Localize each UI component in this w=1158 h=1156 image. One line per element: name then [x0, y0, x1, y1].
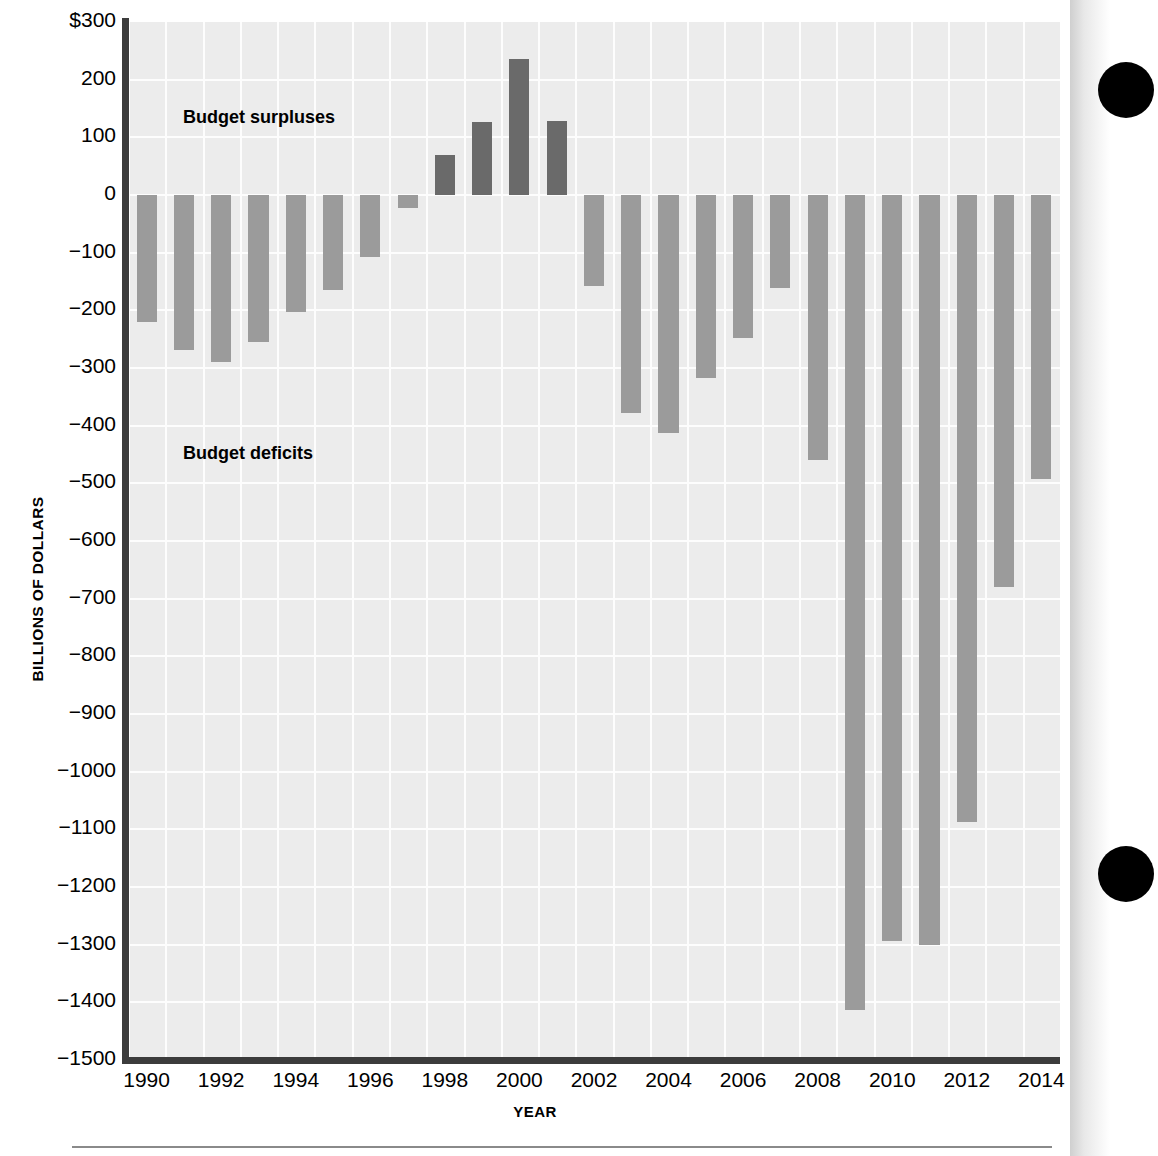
bar-1999	[472, 122, 492, 195]
y-tick-label: −1500	[0, 1046, 116, 1070]
bar-2000	[509, 59, 529, 195]
annotation-budget-deficits: Budget deficits	[183, 443, 313, 464]
y-tick-label: −1000	[0, 758, 116, 782]
y-tick-label: −900	[0, 700, 116, 724]
bar-2001	[547, 121, 567, 195]
y-tick-label: −500	[0, 469, 116, 493]
gridline-vertical	[724, 22, 726, 1060]
y-tick-label: −200	[0, 296, 116, 320]
gridline-vertical	[948, 22, 950, 1060]
bar-1998	[435, 155, 455, 195]
gridline-horizontal	[128, 79, 1060, 81]
plot-area	[128, 22, 1060, 1060]
bar-2012	[957, 195, 977, 822]
x-tick-label-2004: 2004	[645, 1068, 692, 1092]
x-tick-label-2006: 2006	[720, 1068, 767, 1092]
x-tick-label-2014: 2014	[1018, 1068, 1065, 1092]
gridline-vertical	[501, 22, 503, 1060]
bar-1997	[398, 195, 418, 208]
gridline-vertical	[985, 22, 987, 1060]
gridline-vertical	[836, 22, 838, 1060]
gridline-vertical	[762, 22, 764, 1060]
bar-2014	[1031, 195, 1051, 479]
bar-2003	[621, 195, 641, 413]
y-tick-label: −100	[0, 239, 116, 263]
page-margin-strip	[1070, 0, 1158, 1156]
x-axis-title: YEAR	[0, 1103, 1070, 1120]
bar-2010	[882, 195, 902, 941]
bar-2004	[658, 195, 678, 433]
gridline-vertical	[538, 22, 540, 1060]
gridline-vertical	[799, 22, 801, 1060]
bar-2009	[845, 195, 865, 1010]
gridline-vertical	[426, 22, 428, 1060]
bar-1991	[174, 195, 194, 350]
x-tick-label-1994: 1994	[272, 1068, 319, 1092]
y-tick-label: −600	[0, 527, 116, 551]
x-axis-line	[122, 1057, 1060, 1064]
gridline-vertical	[687, 22, 689, 1060]
y-axis-line	[122, 18, 129, 1064]
bar-1994	[286, 195, 306, 312]
y-tick-label: −1100	[0, 815, 116, 839]
x-tick-label-2010: 2010	[869, 1068, 916, 1092]
bar-1995	[323, 195, 343, 290]
y-tick-label: −400	[0, 412, 116, 436]
gridline-vertical	[165, 22, 167, 1060]
bar-2006	[733, 195, 753, 338]
y-tick-label: −300	[0, 354, 116, 378]
gridline-vertical	[575, 22, 577, 1060]
x-tick-label-1996: 1996	[347, 1068, 394, 1092]
bar-1996	[360, 195, 380, 257]
bar-2002	[584, 195, 604, 286]
y-tick-label: 0	[0, 181, 116, 205]
margin-dot-lower-icon	[1098, 846, 1154, 902]
gridline-vertical	[911, 22, 913, 1060]
y-tick-label: −700	[0, 585, 116, 609]
y-tick-label: −1400	[0, 988, 116, 1012]
x-tick-label-2008: 2008	[794, 1068, 841, 1092]
gridline-horizontal	[128, 1001, 1060, 1003]
x-tick-label-2000: 2000	[496, 1068, 543, 1092]
bar-2008	[808, 195, 828, 460]
bar-2007	[770, 195, 790, 288]
x-tick-label-2012: 2012	[943, 1068, 990, 1092]
gridline-vertical	[874, 22, 876, 1060]
bar-2013	[994, 195, 1014, 587]
y-tick-label: 100	[0, 123, 116, 147]
x-tick-label-1990: 1990	[123, 1068, 170, 1092]
y-tick-label: −800	[0, 642, 116, 666]
gridline-horizontal	[128, 136, 1060, 138]
bar-1993	[248, 195, 268, 342]
gridline-vertical	[464, 22, 466, 1060]
bar-1990	[137, 195, 157, 322]
margin-dot-upper-icon	[1098, 62, 1154, 118]
gridline-vertical	[352, 22, 354, 1060]
bar-2011	[919, 195, 939, 945]
y-tick-label: 200	[0, 66, 116, 90]
page-bottom-rule	[72, 1146, 1052, 1148]
plot-inner	[128, 22, 1060, 1060]
x-tick-label-2002: 2002	[571, 1068, 618, 1092]
gridline-vertical	[277, 22, 279, 1060]
chart-page: BILLIONS OF DOLLARS $3002001000−100−200−…	[0, 0, 1158, 1156]
gridline-vertical	[314, 22, 316, 1060]
gridline-vertical	[389, 22, 391, 1060]
bar-2005	[696, 195, 716, 378]
annotation-budget-surpluses: Budget surpluses	[183, 107, 335, 128]
x-tick-label-1992: 1992	[198, 1068, 245, 1092]
gridline-vertical	[203, 22, 205, 1060]
bar-1992	[211, 195, 231, 362]
y-tick-label: −1300	[0, 931, 116, 955]
gridline-vertical	[650, 22, 652, 1060]
y-tick-label: −1200	[0, 873, 116, 897]
x-tick-label-1998: 1998	[422, 1068, 469, 1092]
y-tick-label: $300	[0, 8, 116, 32]
gridline-vertical	[240, 22, 242, 1060]
gridline-vertical	[613, 22, 615, 1060]
gridline-vertical	[1023, 22, 1025, 1060]
